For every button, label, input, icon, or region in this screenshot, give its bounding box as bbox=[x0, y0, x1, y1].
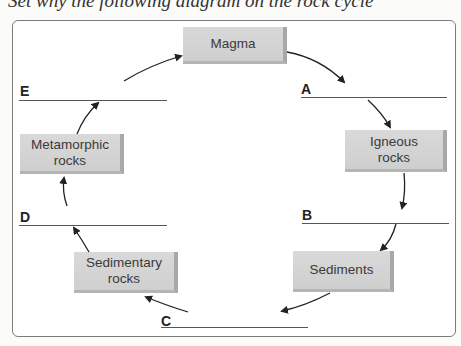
arrow-c-to-sedimentary bbox=[146, 297, 188, 312]
arrow-metamorphic-to-e bbox=[77, 103, 98, 134]
arrow-sediments-to-c bbox=[282, 293, 330, 311]
arrow-igneous-to-b bbox=[402, 173, 405, 208]
cycle-arrows bbox=[0, 0, 461, 346]
arrow-magma-to-a bbox=[287, 52, 344, 82]
arrow-a-to-igneous bbox=[368, 100, 390, 127]
arrow-sedimentary-to-d bbox=[74, 228, 89, 252]
arrow-d-to-metamorphic bbox=[63, 178, 67, 206]
arrow-b-to-sediments bbox=[381, 224, 396, 250]
arrow-e-to-magma bbox=[124, 56, 181, 81]
